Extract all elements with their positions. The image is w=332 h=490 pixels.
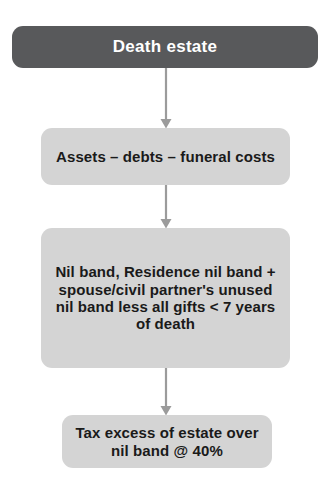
node-death-estate: Death estate xyxy=(12,26,318,68)
flowchart-diagram: Death estate Assets – debts – funeral co… xyxy=(0,0,332,490)
node-tax-excess: Tax excess of estate over nil band @ 40% xyxy=(62,415,272,468)
node-tax-excess-label: Tax excess of estate over nil band @ 40% xyxy=(72,424,262,459)
node-assets-debts-funeral: Assets – debts – funeral costs xyxy=(41,128,290,185)
node-death-estate-label: Death estate xyxy=(113,37,218,57)
arrow-down-icon-2 xyxy=(161,185,172,229)
node-nil-band-calculation: Nil band, Residence nil band + spouse/ci… xyxy=(41,228,290,368)
arrow-down-icon-1 xyxy=(161,68,172,129)
arrow-down-icon-3 xyxy=(161,368,172,416)
node-assets-debts-funeral-label: Assets – debts – funeral costs xyxy=(56,148,275,165)
node-nil-band-calculation-label: Nil band, Residence nil band + spouse/ci… xyxy=(51,263,280,333)
